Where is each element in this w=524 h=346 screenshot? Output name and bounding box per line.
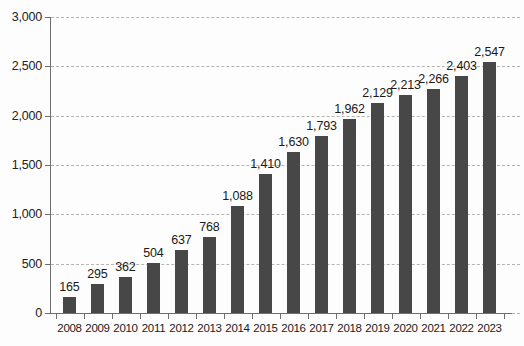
x-axis-tick xyxy=(224,313,225,319)
x-axis-tick-label: 2023 xyxy=(477,322,501,334)
x-axis-tick xyxy=(84,313,85,319)
x-axis-tick xyxy=(168,313,169,319)
x-axis-tick-label: 2012 xyxy=(169,322,193,334)
gridline xyxy=(51,214,520,215)
x-axis-tick-label: 2022 xyxy=(449,322,473,334)
bar-value-label: 1,793 xyxy=(306,119,336,133)
x-axis-tick xyxy=(420,313,421,319)
x-axis-tick xyxy=(112,313,113,319)
y-axis-tick-label: 0 xyxy=(35,306,42,320)
y-axis-tick xyxy=(45,264,51,265)
y-axis-tick-label: 3,000 xyxy=(12,10,42,24)
x-axis-tick xyxy=(196,313,197,319)
bar xyxy=(315,136,328,313)
bar xyxy=(483,62,496,313)
bar-chart: 05001,0001,5002,0002,5003,000 1652953625… xyxy=(0,0,524,346)
x-axis-tick-label: 2019 xyxy=(365,322,389,334)
bar xyxy=(63,297,76,313)
y-axis-tick xyxy=(45,214,51,215)
bar xyxy=(427,89,440,313)
y-axis-tick xyxy=(45,66,51,67)
x-axis-tick-label: 2018 xyxy=(337,322,361,334)
x-axis-tick-label: 2014 xyxy=(225,322,249,334)
bar xyxy=(455,76,468,313)
x-axis-tick xyxy=(476,313,477,319)
x-axis-tick-label: 2021 xyxy=(421,322,445,334)
x-axis-tick-label: 2016 xyxy=(281,322,305,334)
gridline xyxy=(51,116,520,117)
bar xyxy=(231,206,244,313)
bar xyxy=(287,152,300,313)
gridline xyxy=(51,17,520,18)
y-axis-tick-label: 2,000 xyxy=(12,109,42,123)
bar-value-label: 2,213 xyxy=(390,78,420,92)
x-axis-tick xyxy=(504,313,505,319)
gridline xyxy=(51,165,520,166)
y-axis-tick-label: 500 xyxy=(22,257,42,271)
x-axis-tick-label: 2015 xyxy=(253,322,277,334)
x-axis-tick-label: 2010 xyxy=(113,322,137,334)
x-axis-tick xyxy=(56,313,57,319)
y-axis-tick xyxy=(45,17,51,18)
bar xyxy=(371,103,384,313)
x-axis-tick-label: 2013 xyxy=(197,322,221,334)
x-axis-tick xyxy=(336,313,337,319)
bar-value-label: 1,088 xyxy=(222,189,252,203)
bar xyxy=(175,250,188,313)
x-axis-tick xyxy=(308,313,309,319)
x-axis-tick xyxy=(392,313,393,319)
bar-value-label: 1,410 xyxy=(250,157,280,171)
bar xyxy=(147,263,160,313)
bar-value-label: 2,266 xyxy=(418,72,448,86)
y-axis-tick xyxy=(45,165,51,166)
bar-value-label: 2,403 xyxy=(446,59,476,73)
bar-value-label: 2,129 xyxy=(362,86,392,100)
y-axis-tick-label: 1,500 xyxy=(12,158,42,172)
bar-value-label: 1,962 xyxy=(334,102,364,116)
y-axis-line xyxy=(50,17,51,314)
bar xyxy=(91,284,104,313)
bar-value-label: 768 xyxy=(199,220,219,234)
x-axis-tick-label: 2011 xyxy=(142,322,166,334)
y-axis-tick-label: 1,000 xyxy=(12,207,42,221)
bar-value-label: 1,630 xyxy=(278,135,308,149)
x-axis-tick xyxy=(280,313,281,319)
bar-value-label: 504 xyxy=(143,246,163,260)
bar xyxy=(259,174,272,313)
y-axis-tick xyxy=(45,116,51,117)
bar xyxy=(343,119,356,313)
bar xyxy=(399,95,412,313)
bar-value-label: 362 xyxy=(115,260,135,274)
bar xyxy=(119,277,132,313)
x-axis-line xyxy=(51,313,512,314)
bar xyxy=(203,237,216,313)
x-axis-tick-label: 2009 xyxy=(85,322,109,334)
bar-value-label: 637 xyxy=(171,233,191,247)
bar-value-label: 2,547 xyxy=(474,45,504,59)
x-axis-tick-label: 2020 xyxy=(393,322,417,334)
x-axis-tick xyxy=(364,313,365,319)
y-axis-tick-label: 2,500 xyxy=(12,59,42,73)
x-axis-tick xyxy=(140,313,141,319)
x-axis-tick xyxy=(448,313,449,319)
bar-value-label: 295 xyxy=(87,267,107,281)
x-axis-tick-label: 2017 xyxy=(309,322,333,334)
x-axis-tick-label: 2008 xyxy=(57,322,81,334)
bar-value-label: 165 xyxy=(59,280,79,294)
x-axis-tick xyxy=(252,313,253,319)
